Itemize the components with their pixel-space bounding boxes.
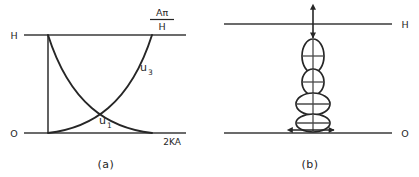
curve-label-u3: u xyxy=(140,61,147,74)
fraction-denominator: H xyxy=(158,21,165,32)
ellipse-1 xyxy=(302,39,324,73)
panel-a: H O Aπ H u 3 u 1 2KA (a) xyxy=(0,0,210,177)
curve-label-u1: u xyxy=(99,114,106,127)
panel-b-caption: (b) xyxy=(301,158,318,171)
panel-b-graphic: H O (b) xyxy=(210,0,419,177)
figure-root: H O Aπ H u 3 u 1 2KA (a) xyxy=(0,0,419,177)
panel-b: H O (b) xyxy=(210,0,419,177)
panel-a-graphic: H O Aπ H u 3 u 1 2KA (a) xyxy=(0,0,210,177)
curve-label-u3-subscript: 3 xyxy=(148,68,153,77)
axis-label-h: H xyxy=(10,30,17,41)
fraction-numerator: Aπ xyxy=(156,7,168,18)
axis-label-o: O xyxy=(10,128,17,139)
ellipse-2 xyxy=(302,69,324,95)
axis-label-o: O xyxy=(401,128,408,139)
x-axis-end-tick-label: 2KA xyxy=(163,137,181,147)
axis-label-h: H xyxy=(401,19,408,30)
curve-label-u1-subscript: 1 xyxy=(107,121,112,130)
ellipse-3 xyxy=(296,93,330,115)
panel-a-caption: (a) xyxy=(98,158,115,171)
